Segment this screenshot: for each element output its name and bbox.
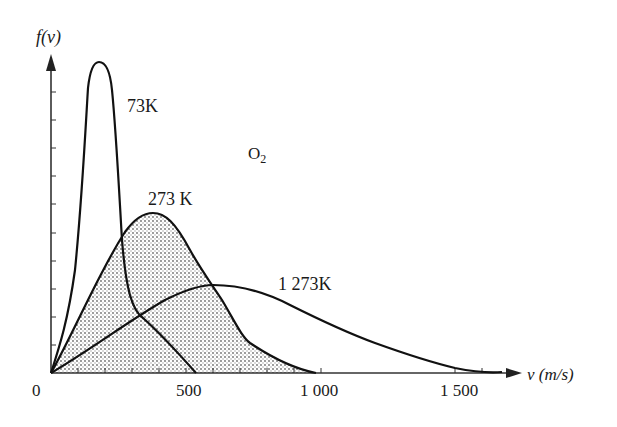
x-tick-label-500: 500	[176, 381, 202, 400]
gas-symbol: O	[248, 144, 260, 163]
gas-label: O2	[248, 144, 266, 166]
y-axis-label: f(v)	[36, 27, 61, 48]
gas-subscript: 2	[260, 152, 266, 166]
curve-label-73k: 73K	[127, 96, 158, 116]
x-tick-label-1000: 1 000	[300, 381, 338, 400]
maxwell-distribution-chart: f(v) v (m/s) 0 500 1 000 1 500 73K 273 K…	[0, 0, 617, 427]
curve-label-1273k: 1 273K	[278, 274, 332, 294]
x-tick-label-1500: 1 500	[440, 381, 478, 400]
y-axis-arrow-icon	[46, 54, 56, 71]
x-axis-arrow-icon	[506, 368, 522, 378]
curve-label-273k: 273 K	[148, 189, 193, 209]
x-axis-label: v (m/s)	[527, 365, 574, 384]
origin-label: 0	[32, 381, 41, 400]
